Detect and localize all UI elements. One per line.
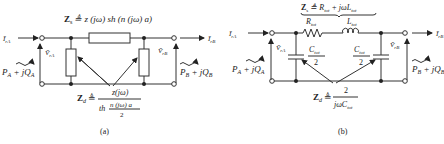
voltage-label-a-left: V̄rA <box>45 49 55 58</box>
shunt-impedance-label-a: Zd≜ <box>77 93 96 104</box>
series-impedance-box <box>89 33 130 43</box>
inductor-label: Ltot <box>346 17 357 27</box>
power-flow-icon <box>180 63 198 66</box>
inductor-icon <box>343 28 359 33</box>
terminal-a-right-top <box>172 36 177 41</box>
zd-den-num-a: n (jω) a <box>110 101 133 109</box>
terminal-b-right-top <box>403 31 408 36</box>
shunt-impedance-left <box>66 49 76 76</box>
current-label-b-left: ĪrA <box>228 30 237 39</box>
circuit-b: Zs≜ Rtot + jωLtot Rtot Ltot Ctot 2 Ctot … <box>228 3 444 136</box>
terminal-b-left-bottom <box>270 79 275 84</box>
voltage-label-b-left: V̄rA <box>276 44 286 53</box>
power-flow-icon <box>246 60 264 63</box>
current-label-a-right: ĪrB <box>207 35 215 44</box>
capacitor-right-den: 2 <box>359 58 363 67</box>
caption-a: (a) <box>100 127 109 136</box>
capacitor-right-label: Ctot <box>354 45 365 55</box>
resistor-label: Rtot <box>305 17 317 27</box>
zd-numerator-a: z(jω) <box>111 88 129 97</box>
zd-numerator-b: 2 <box>344 86 348 95</box>
zd-th-a: th <box>99 104 105 113</box>
voltage-label-a-right: V̄rB <box>158 47 167 56</box>
capacitor-left-label: Ctot <box>309 45 320 55</box>
power-flow-icon <box>16 63 34 66</box>
shunt-impedance-right <box>139 49 149 76</box>
voltage-label-b-right: V̄rB <box>390 41 399 50</box>
zd-denominator-b: jωCtot <box>333 100 353 110</box>
terminal-b-left-top <box>270 31 275 36</box>
series-impedance-label-b: Zs≜ Rtot + jωLtot <box>301 3 357 13</box>
resistor-icon <box>303 29 322 37</box>
brace-icon <box>301 13 376 17</box>
power-label-a-left: PA + jQA <box>1 67 35 78</box>
power-label-a-right: PB + jQB <box>179 67 213 78</box>
series-impedance-label-a: Zs≜ z (jω) sh (n (jω) a) <box>64 14 152 25</box>
terminal-a-left-top <box>40 36 45 41</box>
power-label-b-left: PA + jQA <box>231 64 265 75</box>
current-label-b-right: ĪrB <box>435 30 443 39</box>
circuit-a: Zs≜ z (jω) sh (n (jω) a) ĪrA ĪrB V̄rA V̄… <box>1 14 215 136</box>
capacitor-left-den: 2 <box>314 58 318 67</box>
caption-b: (b) <box>338 127 348 136</box>
zd-den-den-a: 2 <box>120 111 124 119</box>
shunt-impedance-label-b: Zd≜ <box>313 92 332 103</box>
diagram-canvas: Zs≜ z (jω) sh (n (jω) a) ĪrA ĪrB V̄rA V̄… <box>0 0 444 144</box>
power-flow-icon <box>412 60 430 63</box>
power-label-b-right: PB + jQB <box>411 64 444 75</box>
current-label-a-left: ĪrA <box>2 35 11 44</box>
